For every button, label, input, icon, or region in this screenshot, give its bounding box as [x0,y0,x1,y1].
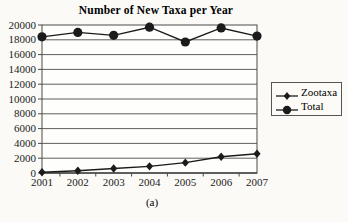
x-tick-label: 2001 [31,176,53,188]
legend-item-zootaxa: Zootaxa [276,85,338,99]
total-point [217,23,226,32]
x-tick-label: 2006 [210,176,233,188]
figure-panel: 0200040006000800010000120001400016000180… [0,0,348,222]
total-point [252,31,261,40]
legend-label-zootaxa: Zootaxa [301,85,337,99]
x-tick-label: 2002 [67,176,89,188]
y-tick-label: 6000 [14,122,37,134]
total-point [73,28,82,37]
legend: Zootaxa Total [271,82,342,116]
x-tick-label: 2007 [246,176,269,188]
total-point [181,37,190,46]
y-tick-label: 16000 [9,48,37,60]
legend-item-total: Total [276,99,338,113]
chart-title: Number of New Taxa per Year [0,4,312,16]
total-point [109,31,118,40]
x-tick-label: 2005 [174,176,197,188]
y-tick-label: 20000 [9,19,37,31]
x-tick-label: 2004 [139,176,162,188]
y-tick-label: 10000 [9,93,37,105]
circle-marker-icon [276,101,298,111]
y-tick-label: 8000 [14,107,37,119]
total-point [37,32,46,41]
y-tick-label: 18000 [9,33,37,45]
y-tick-label: 4000 [14,137,37,149]
legend-label-total: Total [301,99,323,113]
y-tick-label: 12000 [9,78,37,90]
y-tick-label: 2000 [14,152,37,164]
diamond-marker-icon [276,87,298,97]
total-point [145,23,154,32]
x-tick-label: 2003 [103,176,126,188]
y-tick-label: 14000 [9,63,37,75]
subfigure-caption: (a) [0,196,304,208]
